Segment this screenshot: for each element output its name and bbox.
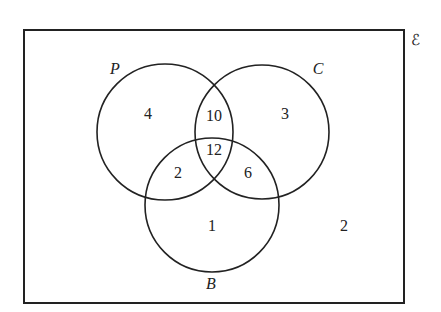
region-c-and-b: 6 [244, 165, 252, 181]
set-p-circle [97, 64, 233, 200]
set-c-label: C [313, 61, 324, 77]
set-c-circle [195, 65, 329, 199]
region-p-c-b: 12 [206, 142, 222, 158]
universal-set-rectangle [24, 30, 404, 303]
universal-set-symbol: ℰ [411, 33, 420, 48]
region-p-only: 4 [144, 106, 152, 122]
region-p-and-c: 10 [206, 108, 222, 124]
set-p-label: P [110, 61, 120, 77]
region-p-and-b: 2 [174, 165, 182, 181]
set-b-circle [145, 138, 279, 272]
region-c-only: 3 [281, 106, 289, 122]
region-b-only: 1 [208, 218, 216, 234]
region-outside: 2 [340, 218, 348, 234]
set-b-label: B [206, 276, 216, 292]
